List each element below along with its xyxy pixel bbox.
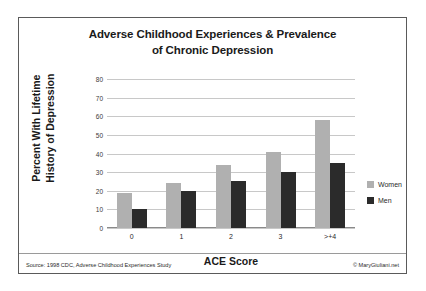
y-axis-tick-label: 60 bbox=[96, 113, 103, 120]
bar-men bbox=[281, 172, 296, 228]
y-axis-tick-label: 70 bbox=[96, 94, 103, 101]
legend-item-women: Women bbox=[367, 181, 402, 188]
chart-title: Adverse Childhood Experiences & Prevalen… bbox=[19, 27, 406, 59]
bar-women bbox=[117, 193, 132, 228]
bar-groups: 0123>+4 bbox=[107, 79, 355, 228]
y-axis-tick-label: 40 bbox=[96, 150, 103, 157]
bar-group: 3 bbox=[257, 79, 304, 228]
y-axis-title-line-1: Percent With Lifetime bbox=[29, 58, 43, 198]
y-axis-tick-label: 80 bbox=[96, 76, 103, 83]
chart-legend: WomenMen bbox=[367, 181, 402, 213]
legend-label: Women bbox=[378, 181, 402, 188]
y-axis-tick-label: 30 bbox=[96, 169, 103, 176]
bar-women bbox=[266, 152, 281, 228]
x-axis-tick-label: 0 bbox=[130, 233, 134, 240]
bar-group: >+4 bbox=[307, 79, 354, 228]
chart-title-line-1: Adverse Childhood Experiences & Prevalen… bbox=[19, 27, 406, 43]
chart-footer: Source: 1998 CDC, Adverse Childhood Expe… bbox=[26, 262, 399, 268]
y-axis-title: Percent With Lifetime History of Depress… bbox=[29, 58, 57, 198]
y-axis-tick-label: 0 bbox=[99, 225, 103, 232]
y-axis-tick-label: 50 bbox=[96, 131, 103, 138]
bar-women bbox=[315, 120, 330, 228]
y-axis-tick-label: 20 bbox=[96, 187, 103, 194]
bar-group: 2 bbox=[207, 79, 254, 228]
plot-area: Percent With Lifetime History of Depress… bbox=[19, 66, 408, 246]
bar-men bbox=[330, 163, 345, 228]
bar-men bbox=[231, 181, 246, 228]
bar-women bbox=[166, 183, 181, 228]
x-axis-tick-label: 3 bbox=[279, 233, 283, 240]
legend-item-men: Men bbox=[367, 197, 402, 204]
legend-swatch bbox=[367, 197, 374, 204]
bar-men bbox=[132, 209, 147, 228]
chart-title-line-2: of Chronic Depression bbox=[19, 43, 406, 59]
gridline: 0 bbox=[107, 228, 355, 229]
y-axis-title-line-2: History of Depression bbox=[43, 58, 57, 198]
bar-women bbox=[216, 165, 231, 228]
x-axis-tick-label: >+4 bbox=[324, 233, 336, 240]
y-axis-tick-label: 10 bbox=[96, 206, 103, 213]
x-axis-tick-label: 1 bbox=[179, 233, 183, 240]
plot-grid: 80706050403020100 0123>+4 bbox=[107, 79, 355, 228]
source-note: Source: 1998 CDC, Adverse Childhood Expe… bbox=[26, 262, 171, 268]
copyright-note: © MaryGiuliani.net bbox=[353, 262, 399, 268]
bar-group: 0 bbox=[108, 79, 155, 228]
footer-divider bbox=[19, 253, 406, 254]
x-axis-tick-label: 2 bbox=[229, 233, 233, 240]
bar-men bbox=[181, 191, 196, 228]
chart-figure: Adverse Childhood Experiences & Prevalen… bbox=[18, 17, 407, 274]
bar-group: 1 bbox=[158, 79, 205, 228]
legend-label: Men bbox=[378, 197, 392, 204]
legend-swatch bbox=[367, 181, 374, 188]
